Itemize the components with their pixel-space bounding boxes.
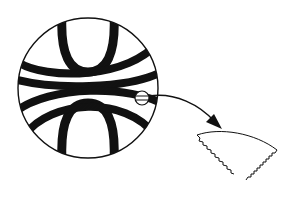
corrugated-wedge bbox=[197, 131, 277, 180]
diagram-canvas bbox=[0, 0, 291, 198]
arrow bbox=[149, 95, 215, 122]
detail-circle bbox=[135, 91, 149, 105]
fibre-bands bbox=[10, 15, 165, 160]
